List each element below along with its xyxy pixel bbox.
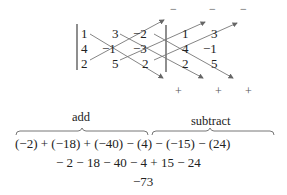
minus-sign: −: [209, 2, 216, 17]
matrix-cell: 2: [81, 57, 88, 70]
minus-sign: −: [240, 2, 247, 17]
expansion-line: (−2) + (−18) + (−40) − (4) − (−15) − (24…: [15, 136, 230, 152]
plus-sign: +: [175, 84, 182, 99]
repeated-cell: 1: [182, 27, 189, 40]
add-label: add: [72, 110, 90, 125]
matrix-cell: 4: [81, 42, 88, 55]
repeated-cell: 5: [211, 57, 218, 70]
repeated-cell: −1: [203, 42, 217, 55]
plus-sign: +: [245, 84, 252, 99]
minus-sign: −: [170, 2, 177, 17]
matrix-cell: 5: [112, 57, 119, 70]
repeated-cell: 4: [182, 42, 189, 55]
matrix-cell: −2: [133, 27, 147, 40]
repeated-cell: 3: [211, 27, 218, 40]
simplified-line: − 2 − 18 − 40 − 4 + 15 − 24: [56, 155, 201, 171]
plus-sign: +: [215, 84, 222, 99]
add-brace: [16, 128, 148, 135]
repeated-cell: 2: [182, 57, 189, 70]
result: −73: [133, 174, 153, 190]
subtract-label: subtract: [191, 114, 231, 129]
matrix-cell: −3: [133, 42, 147, 55]
matrix-cell: 1: [81, 27, 88, 40]
matrix-cell: 2: [142, 57, 149, 70]
matrix-cell: 3: [112, 27, 119, 40]
matrix-cell: −1: [102, 42, 116, 55]
subtract-brace: [152, 128, 274, 135]
